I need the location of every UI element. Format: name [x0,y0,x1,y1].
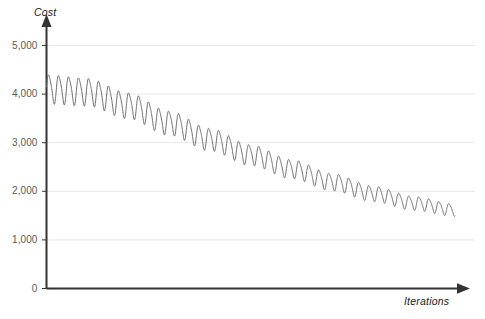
x-axis-title: Iterations [404,295,449,307]
y-axis-tick-label: 1,000 [0,234,38,245]
cost-series-line [47,75,456,217]
y-axis-tick-label: 2,000 [0,185,38,196]
y-axis-tick-label: 0 [0,283,38,294]
y-axis-tick-label: 5,000 [0,40,38,51]
y-axis-title: Cost [34,6,56,18]
gridlines-group [47,46,476,240]
y-axis-tick-label: 4,000 [0,88,38,99]
axis-lines-group [42,14,471,294]
x-axis-arrowhead [457,283,470,294]
y-axis-tick-label: 3,000 [0,137,38,148]
chart-plot-area [0,0,485,319]
cost-iterations-chart: Cost Iterations 01,0002,0003,0004,0005,0… [0,0,485,319]
